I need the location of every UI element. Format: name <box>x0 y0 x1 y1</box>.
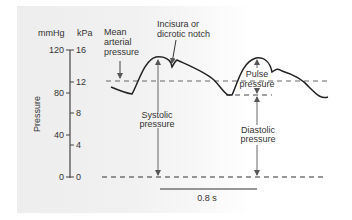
label-pulse-1: Pulse <box>246 69 269 79</box>
tick-kpa-4: 4 <box>76 140 81 150</box>
label-incisura-1: Incisura or <box>157 19 199 29</box>
tick-mmhg-40: 40 <box>54 130 64 140</box>
tick-kpa-8: 8 <box>76 108 81 118</box>
label-mean-arterial-1: Mean <box>104 27 127 37</box>
tick-kpa-16: 16 <box>76 45 86 55</box>
unit-mmhg: mmHg <box>38 28 65 38</box>
label-systolic-2: pressure <box>139 119 174 129</box>
axis-title-pressure: Pressure <box>32 96 42 132</box>
tick-mmhg-120: 120 <box>49 45 64 55</box>
tick-kpa-0: 0 <box>76 172 81 182</box>
incisura-arrow <box>172 40 176 63</box>
tick-mmhg-0: 0 <box>59 172 64 182</box>
tick-kpa-12: 12 <box>76 77 86 87</box>
label-mean-arterial-2: arterial <box>104 37 132 47</box>
label-diastolic-2: pressure <box>240 134 275 144</box>
unit-kpa: kPa <box>77 28 93 38</box>
arterial-pressure-diagram: mmHg kPa 120 80 40 0 16 12 8 4 0 Pressur… <box>0 0 352 220</box>
pressure-axis: mmHg kPa 120 80 40 0 16 12 8 4 0 Pressur… <box>32 28 93 182</box>
tick-mmhg-80: 80 <box>54 88 64 98</box>
label-incisura-2: dicrotic notch <box>157 29 210 39</box>
time-scale-label: 0.8 s <box>197 193 217 203</box>
pressure-waveform <box>111 57 328 98</box>
label-pulse-2: pressure <box>239 79 274 89</box>
label-mean-arterial-3: pressure <box>104 47 139 57</box>
